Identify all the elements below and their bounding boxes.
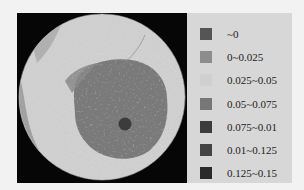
legend-swatch [200, 167, 212, 179]
contour-map [17, 13, 187, 183]
legend-item: 0.05~0.075 [200, 97, 212, 111]
wafer-map-graphic [17, 13, 187, 183]
legend-swatch [200, 51, 212, 63]
legend-label: 0~0.025 [227, 51, 263, 63]
legend-item: 0.125~0.15 [200, 166, 212, 180]
legend-item: ~0 [200, 27, 212, 41]
legend-label: 0.01~0.125 [227, 144, 277, 156]
legend-label: 0.125~0.15 [227, 167, 277, 179]
legend-swatch [200, 74, 212, 86]
legend-item: 0.075~0.01 [200, 120, 212, 134]
legend-label: 0.05~0.075 [227, 98, 277, 110]
legend-swatch [200, 98, 212, 110]
legend: ~0 0~0.025 0.025~0.05 0.05~0.075 0.075~0… [187, 13, 292, 183]
legend-swatch [200, 28, 212, 40]
legend-item: 0.01~0.125 [200, 143, 212, 157]
legend-label: 0.025~0.05 [227, 74, 277, 86]
legend-label: ~0 [227, 28, 238, 40]
band-0075-001-spot [119, 118, 132, 131]
legend-swatch [200, 121, 212, 133]
legend-swatch [200, 144, 212, 156]
legend-item: 0~0.025 [200, 50, 212, 64]
legend-label: 0.075~0.01 [227, 121, 277, 133]
legend-item: 0.025~0.05 [200, 73, 212, 87]
